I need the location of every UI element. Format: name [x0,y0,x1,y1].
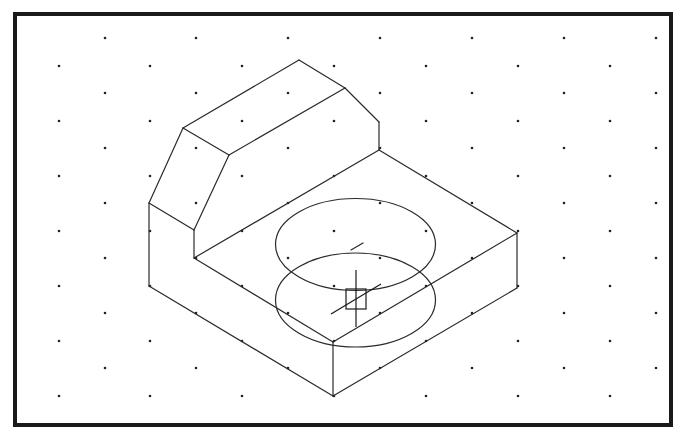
grid-dot [517,120,520,123]
grid-dot [149,395,152,398]
drawing-canvas[interactable] [0,0,686,443]
grid-dot [425,120,428,123]
grid-dot [517,65,520,68]
object-edge[interactable] [299,60,345,88]
grid-dot [104,92,107,95]
grid-dot [58,230,61,233]
grid-dot [241,395,244,398]
grid-dot [655,312,658,315]
grid-dot [655,202,658,205]
grid-dot [195,147,198,150]
grid-dot [195,92,198,95]
center-mark [351,243,363,250]
grid-dot [241,175,244,178]
grid-dot [563,367,566,370]
grid-dot [58,175,61,178]
grid-dot [287,92,290,95]
grid-dot [517,175,520,178]
grid-dot [425,395,428,398]
grid-dot [609,395,612,398]
grid-dot [517,230,520,233]
grid-dot [609,175,612,178]
grid-dot [104,312,107,315]
grid-dot [471,147,474,150]
grid-dot [104,257,107,260]
grid-dot [425,65,428,68]
object-edge[interactable] [345,88,379,122]
grid-dot [471,367,474,370]
grid-dot [195,37,198,40]
object-edge[interactable] [194,155,229,230]
grid-dot [241,120,244,123]
grid-dot [58,285,61,288]
object-edge[interactable] [183,60,299,128]
grid-dot [609,120,612,123]
grid-dot [471,37,474,40]
grid-dot [149,175,152,178]
grid-dot [425,230,428,233]
grid-dot [104,202,107,205]
grid-dot [655,147,658,150]
grid-dot [58,65,61,68]
grid-dot [149,65,152,68]
snap-grid [58,37,658,398]
grid-dot [563,312,566,315]
grid-dot [517,395,520,398]
object-edge[interactable] [333,288,517,396]
grid-dot [149,120,152,123]
grid-dot [287,147,290,150]
grid-dot [563,202,566,205]
grid-dot [58,120,61,123]
grid-dot [563,92,566,95]
object-edge[interactable] [149,128,183,203]
grid-dot [609,230,612,233]
object-edge[interactable] [229,88,345,155]
grid-dot [333,120,336,123]
grid-dot [609,65,612,68]
grid-dot [149,340,152,343]
grid-dot [195,202,198,205]
grid-dot [104,147,107,150]
grid-dot [609,285,612,288]
grid-dot [563,257,566,260]
object-edge[interactable] [194,150,379,258]
grid-dot [425,175,428,178]
object-edge[interactable] [333,233,517,342]
grid-dot [563,147,566,150]
object-edge[interactable] [183,128,229,155]
grid-dot [379,257,382,260]
grid-dot [287,37,290,40]
grid-dot [195,367,198,370]
grid-dot [58,395,61,398]
grid-dot [241,65,244,68]
drawing-frame [15,14,671,425]
grid-dot [517,340,520,343]
grid-dot [471,92,474,95]
grid-dot [563,37,566,40]
grid-dot [104,37,107,40]
object-edge[interactable] [149,203,194,230]
grid-dot [333,65,336,68]
grid-dot [379,92,382,95]
object-edge[interactable] [194,258,333,342]
grid-dot [379,202,382,205]
grid-dot [379,37,382,40]
grid-dot [333,230,336,233]
grid-dot [655,92,658,95]
grid-dot [655,257,658,260]
grid-dot [287,257,290,260]
grid-dot [471,202,474,205]
object-edge[interactable] [379,150,517,233]
grid-dot [655,367,658,370]
object-edge[interactable] [149,286,333,396]
grid-dot [609,340,612,343]
isometric-object[interactable] [149,60,517,396]
grid-dot [58,340,61,343]
grid-dot [104,367,107,370]
grid-dot [333,285,336,288]
grid-dot [655,37,658,40]
